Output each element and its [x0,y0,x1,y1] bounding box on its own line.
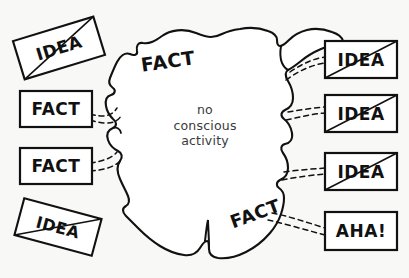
connector-idea-2-b [286,113,325,120]
connector-aha-b [268,220,325,235]
input-fact-upper-left-box[interactable] [20,91,92,127]
input-idea-top-left-box[interactable] [13,17,105,80]
input-fact-lower-left-box[interactable] [20,148,92,184]
connector-fact-lower-left-a [90,152,117,163]
connector-idea-3-a [284,168,325,172]
diagram-artwork [0,0,409,278]
output-idea-2-box[interactable] [325,95,397,132]
connector-idea-2-a [288,107,325,112]
input-idea-bottom-left-box[interactable] [14,198,101,255]
connector-idea-3-b [282,174,325,180]
output-idea-1-box[interactable] [325,41,397,78]
figure-canvas: IDEA FACT FACT IDEA FACT FACT no conscio… [0,0,409,278]
output-idea-3-box[interactable] [325,153,397,190]
output-aha-box[interactable] [325,212,397,250]
